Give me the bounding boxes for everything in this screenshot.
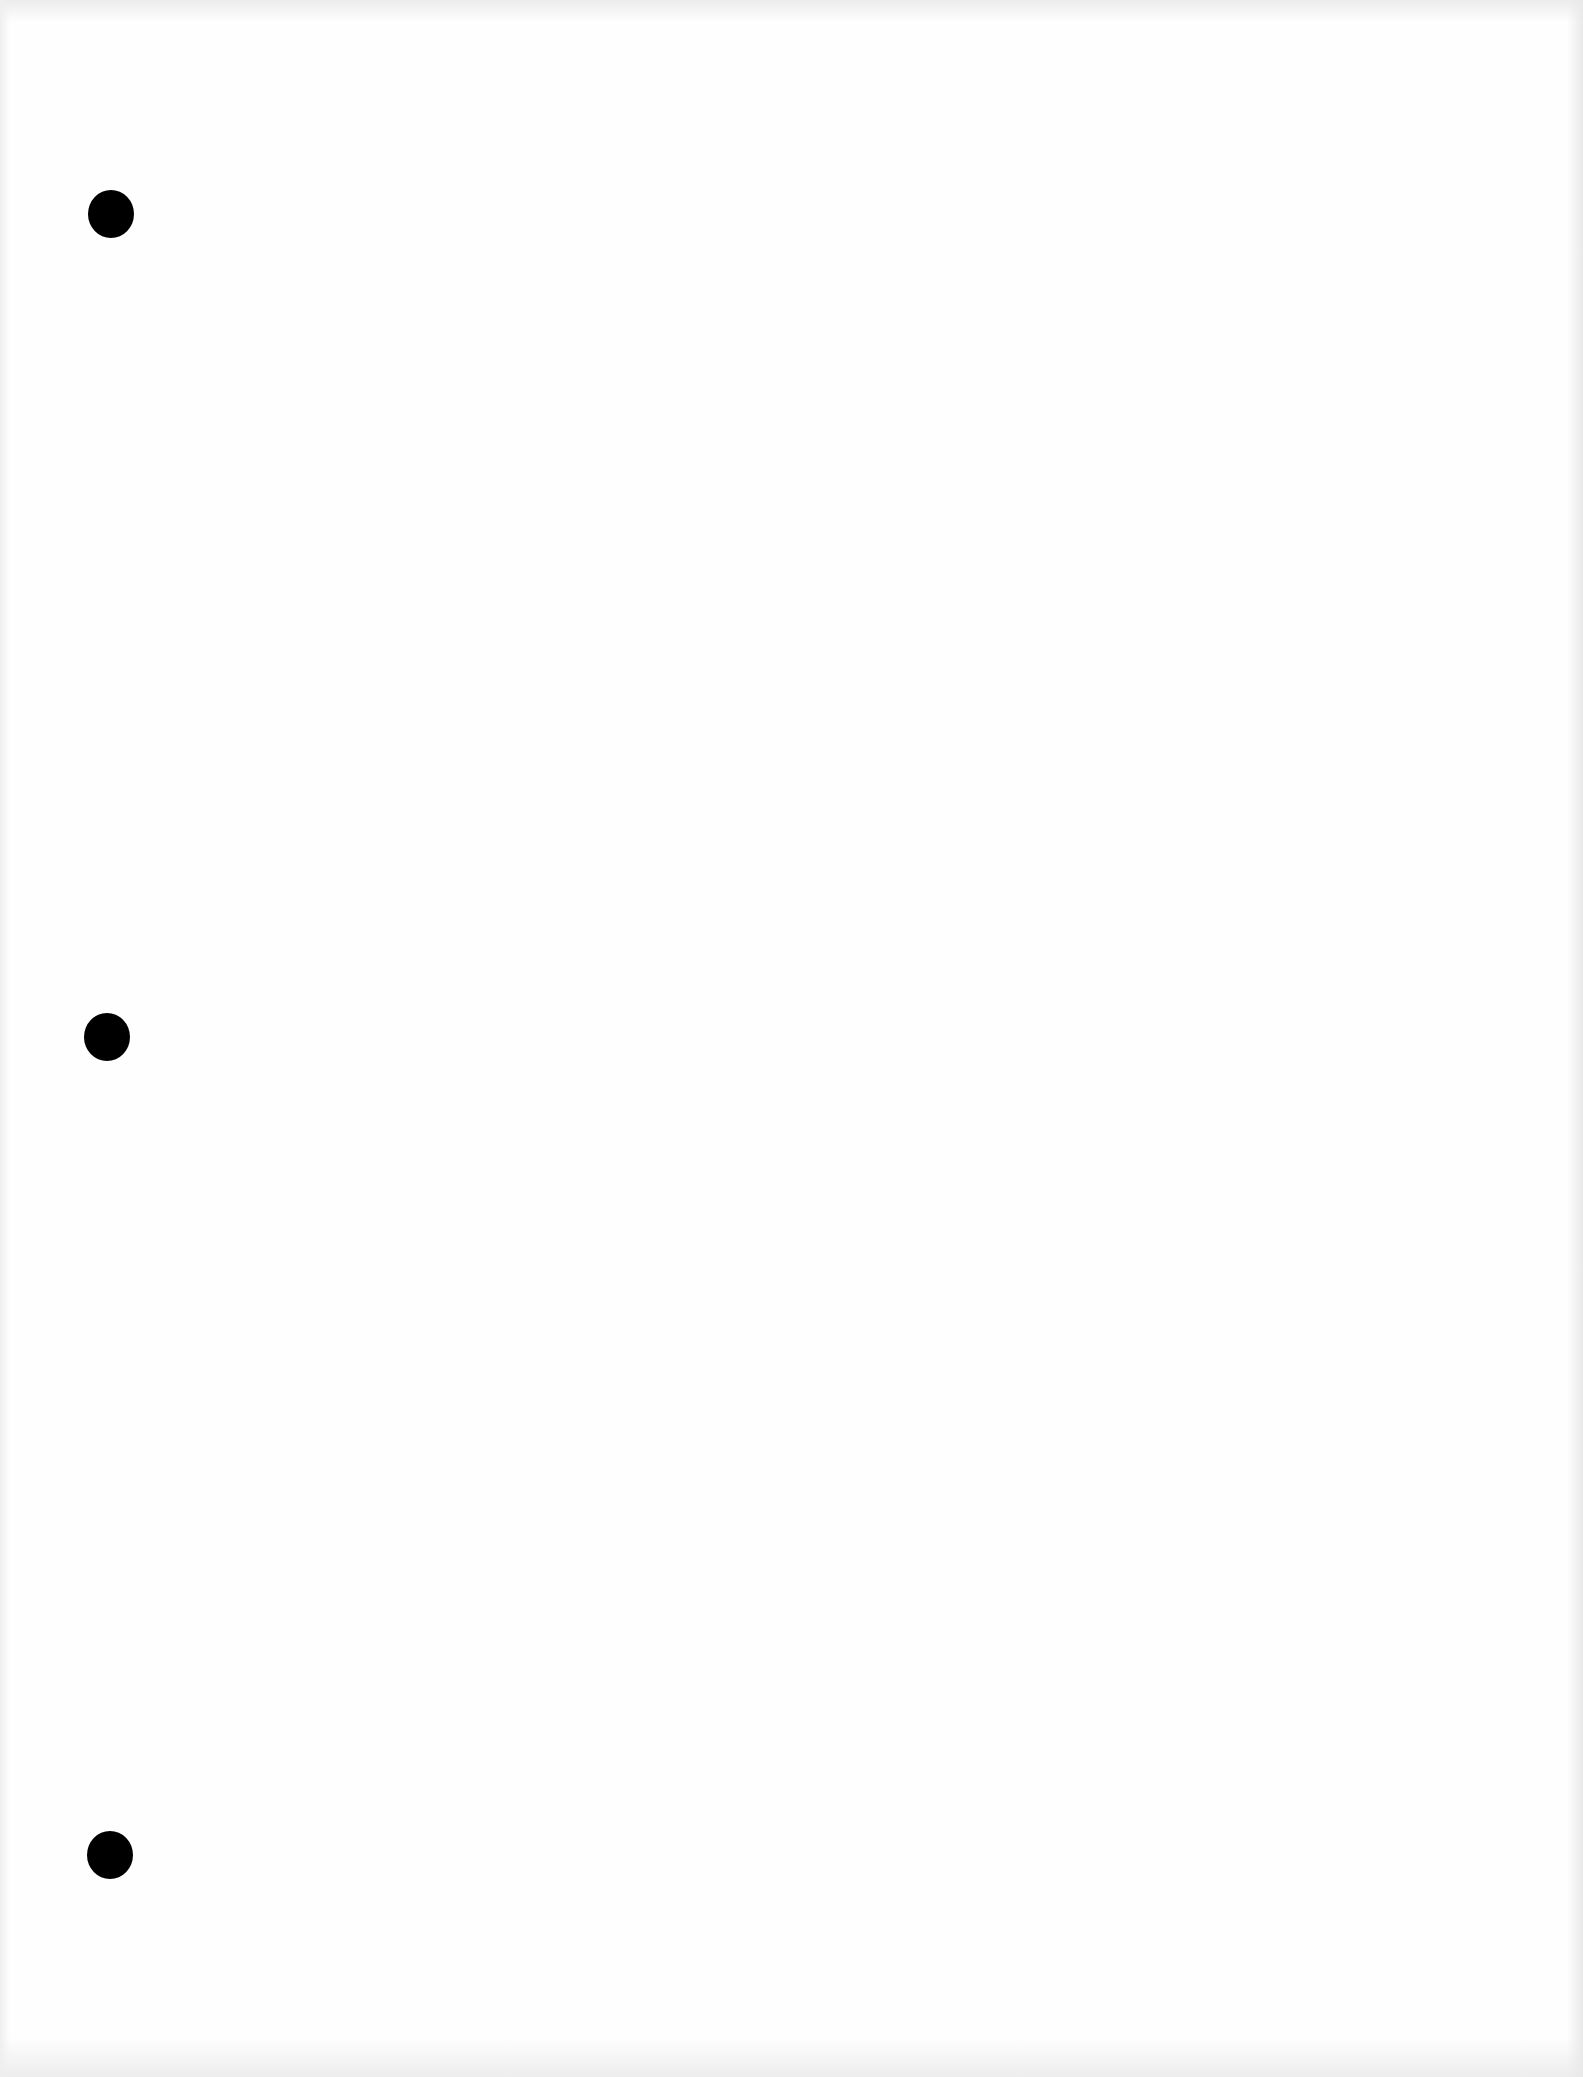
punch-hole-top [88,190,134,238]
scan-shadow-bottom [0,2037,1583,2077]
scan-shadow-left [0,0,10,2077]
punch-hole-middle [84,1013,130,1061]
blank-paper-sheet [0,0,1583,2077]
scan-shadow-right [1567,0,1583,2077]
punch-hole-bottom [87,1831,133,1879]
scan-shadow-top [0,0,1583,22]
